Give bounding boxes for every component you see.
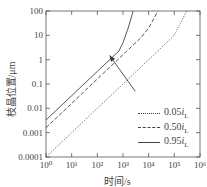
y-tick-label: 1 bbox=[39, 55, 44, 65]
trend-arrow bbox=[110, 55, 136, 91]
y-tick-label: 0.001 bbox=[23, 128, 43, 138]
y-tick-label: 100 bbox=[30, 6, 44, 16]
arrowhead-icon bbox=[110, 55, 116, 61]
legend-label: 0.05iL bbox=[164, 106, 189, 120]
dashed-line-swatch bbox=[138, 127, 160, 128]
legend-item-0.50: 0.50iL bbox=[138, 121, 198, 136]
x-tick-label: 10⁶ bbox=[194, 160, 206, 170]
y-tick-label: 0.1 bbox=[32, 79, 43, 89]
x-axis-label: 时间/s bbox=[104, 173, 131, 187]
y-axis-label: 枝晶位置/μm bbox=[3, 50, 18, 130]
legend-item-0.05: 0.05iL bbox=[138, 106, 198, 121]
dotted-line-swatch bbox=[138, 113, 160, 114]
y-tick-label: 0.01 bbox=[27, 103, 43, 113]
y-tick-label: 10 bbox=[34, 30, 44, 40]
series-0.95iL bbox=[46, 11, 133, 120]
x-tick-label: 10¹ bbox=[66, 160, 78, 170]
x-tick-label: 10⁴ bbox=[143, 160, 155, 170]
legend-item-0.95: 0.95iL bbox=[138, 135, 198, 150]
chart-canvas: 10⁰10¹10²10³10⁴10⁵10⁶1001010.10.010.0010… bbox=[0, 0, 207, 187]
legend: 0.05iL 0.50iL 0.95iL bbox=[138, 106, 198, 150]
legend-label: 0.50iL bbox=[164, 121, 189, 135]
solid-line-swatch bbox=[138, 142, 160, 143]
x-tick-label: 10³ bbox=[117, 160, 129, 170]
legend-label: 0.95iL bbox=[164, 135, 189, 149]
x-tick-label: 10² bbox=[91, 160, 103, 170]
y-tick-label: 0.0001 bbox=[18, 152, 43, 162]
x-tick-label: 10⁵ bbox=[168, 160, 180, 170]
